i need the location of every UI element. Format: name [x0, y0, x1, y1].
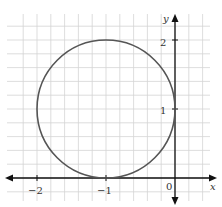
labels: x y 0 −2 −1 1 2: [28, 13, 216, 196]
x-tick-label: −1: [97, 185, 112, 196]
y-tick-label: 2: [160, 37, 166, 48]
y-axis-arrow-down: [172, 197, 179, 205]
x-axis-label: x: [210, 181, 216, 192]
x-axis-arrow-left: [5, 175, 13, 182]
origin-label: 0: [166, 181, 172, 192]
chart: x y 0 −2 −1 1 2: [0, 0, 222, 207]
y-tick-label: 1: [160, 105, 166, 116]
x-tick-label: −2: [28, 185, 43, 196]
y-axis-label: y: [162, 13, 169, 24]
y-axis-arrow-up: [172, 14, 179, 22]
